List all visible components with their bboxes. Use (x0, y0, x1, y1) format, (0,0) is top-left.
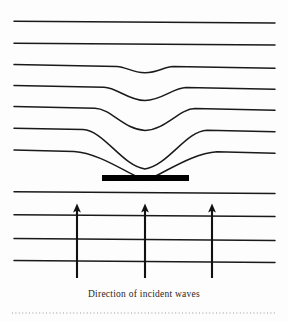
diffracted-wavefront-6 (14, 128, 275, 169)
incident-wavefront-1 (14, 192, 275, 194)
direction-arrow-2 (141, 204, 149, 279)
diffracted-wavefront-4 (14, 86, 275, 101)
direction-arrow-3 (208, 204, 216, 279)
diffracted-wavefront-2 (14, 43, 275, 45)
diffracted-wavefront-3 (14, 65, 275, 73)
diffracted-wavefront-7b (155, 152, 275, 176)
diffracted-wavefront-group (14, 21, 275, 176)
diffracted-wavefront-5 (14, 107, 275, 131)
wave-diffraction-figure: Direction of incident waves (0, 0, 288, 321)
diffraction-diagram-canvas (0, 0, 288, 321)
diffracted-wavefront-1 (14, 21, 275, 23)
barrier (102, 175, 189, 181)
diffracted-wavefront-7a (14, 150, 136, 176)
